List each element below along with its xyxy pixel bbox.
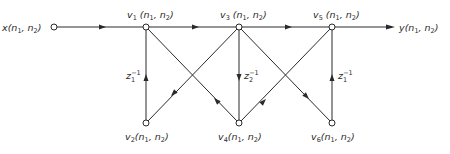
output-label: y(n1, n2) bbox=[398, 22, 438, 35]
node-v1 bbox=[143, 24, 149, 30]
gain-label-z1-right: z1−1 bbox=[337, 69, 353, 84]
arrow-right-icon bbox=[285, 25, 292, 30]
arrow-right-icon bbox=[386, 25, 395, 30]
arrow-up-icon bbox=[144, 74, 149, 81]
arrow-diag-icon bbox=[259, 97, 267, 106]
arrow-right-icon bbox=[192, 25, 199, 30]
node-label-v2: v2(n1, n2) bbox=[125, 131, 169, 144]
arrow-diag-icon bbox=[169, 89, 177, 98]
node-label-v4: v4(n1, n2) bbox=[218, 131, 262, 144]
node-v5 bbox=[329, 24, 335, 30]
arrow-right-icon bbox=[99, 25, 106, 30]
node-label-v6: v6(n1, n2) bbox=[311, 131, 355, 144]
arrow-up-icon bbox=[330, 74, 335, 81]
arrow-down-icon bbox=[237, 74, 242, 81]
input-label: x(n1, n2) bbox=[1, 22, 41, 35]
node-label-v5: v5 (n1, n2) bbox=[313, 9, 360, 22]
node-label-v3: v3 (n1, n2) bbox=[220, 9, 267, 22]
gain-label-z1-left: z1−1 bbox=[125, 69, 141, 84]
node-v6 bbox=[329, 120, 335, 126]
node-v4 bbox=[236, 120, 242, 126]
gain-label-z2: z2−1 bbox=[243, 69, 259, 84]
node-label-v1: v1 (n1, n2) bbox=[127, 9, 174, 22]
node-v3 bbox=[236, 24, 242, 30]
node-input bbox=[51, 24, 57, 30]
signal-flow-graph: x(n1, n2) y(n1, n2) v1 (n1, n2) v3 (n1, … bbox=[0, 0, 450, 154]
node-v2 bbox=[143, 120, 149, 126]
